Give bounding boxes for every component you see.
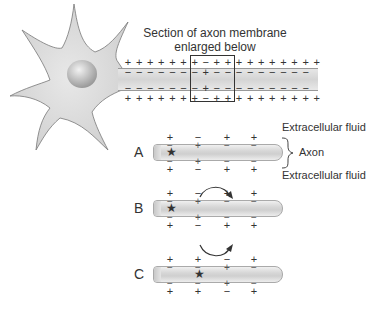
- charge: +: [313, 93, 321, 104]
- charge: +: [180, 93, 188, 104]
- charge: −: [291, 67, 299, 78]
- star-icon: ★: [194, 269, 202, 280]
- charge: −: [180, 67, 188, 78]
- charge: −: [213, 67, 221, 78]
- charge: +: [146, 93, 154, 104]
- star-icon: ★: [166, 203, 174, 214]
- charge: −: [223, 286, 231, 297]
- charge: +: [291, 93, 299, 104]
- charge: +: [268, 93, 276, 104]
- charge: +: [250, 286, 258, 297]
- charge: +: [202, 67, 210, 78]
- charge: −: [235, 67, 243, 78]
- charge: −: [135, 67, 143, 78]
- label-extracellular-top: Extracellular fluid: [282, 121, 366, 133]
- charge: +: [223, 262, 231, 273]
- charge: −: [250, 262, 258, 273]
- charge: −: [194, 164, 202, 175]
- charge: +: [135, 93, 143, 104]
- charge: −: [157, 67, 165, 78]
- charge: −: [268, 67, 276, 78]
- charge: +: [124, 93, 132, 104]
- caption: Section of axon membrane enlarged below: [140, 26, 290, 54]
- charge: −: [250, 140, 258, 151]
- charge: −: [224, 67, 232, 78]
- charge: −: [302, 67, 310, 78]
- charge: +: [166, 164, 174, 175]
- charge: +: [168, 93, 176, 104]
- charge: +: [250, 220, 258, 231]
- charge: +: [157, 93, 165, 104]
- charge: −: [223, 140, 231, 151]
- charge: +: [223, 220, 231, 231]
- charge: −: [250, 196, 258, 207]
- charge: −: [168, 67, 176, 78]
- row-label-b: B: [134, 200, 143, 216]
- charge: −: [257, 67, 265, 78]
- charge: −: [124, 67, 132, 78]
- row-label-a: A: [134, 144, 143, 160]
- charge: +: [279, 93, 287, 104]
- charge: +: [223, 164, 231, 175]
- charge: +: [194, 286, 202, 297]
- charge: +: [235, 93, 243, 104]
- label-extracellular-bottom: Extracellular fluid: [282, 169, 366, 181]
- charge: +: [302, 93, 310, 104]
- charge: +: [224, 93, 232, 104]
- charge: +: [257, 93, 265, 104]
- charge: +: [194, 140, 202, 151]
- charge: −: [194, 220, 202, 231]
- charge: +: [194, 196, 202, 207]
- caption-line-1: Section of axon membrane: [140, 26, 290, 40]
- caption-line-2: enlarged below: [140, 40, 290, 54]
- charge: −: [279, 67, 287, 78]
- charge: +: [191, 93, 199, 104]
- star-icon: ★: [166, 147, 174, 158]
- row-label-c: C: [134, 266, 144, 282]
- charge: −: [223, 196, 231, 207]
- charge: +: [246, 93, 254, 104]
- charge: +: [166, 220, 174, 231]
- charge: −: [246, 67, 254, 78]
- charge: +: [250, 164, 258, 175]
- charge: +: [213, 93, 221, 104]
- charge: −: [202, 93, 210, 104]
- charge: −: [191, 67, 199, 78]
- charge: −: [166, 262, 174, 273]
- charge: −: [146, 67, 154, 78]
- charge: +: [166, 286, 174, 297]
- charge: +: [313, 57, 321, 68]
- label-axon: Axon: [299, 146, 324, 158]
